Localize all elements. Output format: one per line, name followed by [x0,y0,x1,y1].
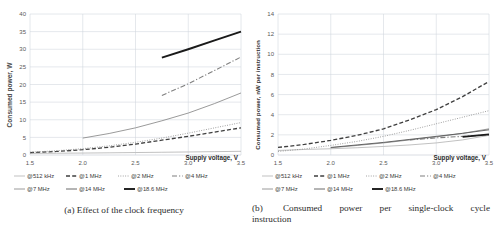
legend-label-1mhz[interactable]: @1 MHz [79,173,102,179]
chart-a-y-axis-label: Consumed power, W [6,62,14,128]
y-tick-label: 20 [19,82,26,88]
caption-b-word-1: power [339,203,362,214]
legend-label-2mhz[interactable]: @2 MHz [131,173,154,179]
legend-label-512khz[interactable]: @512 kHz [275,173,302,179]
y-tick-label: 5 [23,135,27,141]
y-tick-label: 14 [267,11,274,17]
chart-a: 0510152025303540 1.52.02.53.03.5 Consume… [0,0,248,200]
caption-b-word-0: Consumed [283,203,322,214]
y-tick-label: 8 [271,72,275,78]
x-tick-label: 3.5 [485,160,494,166]
legend-label-14mhz[interactable]: @14 MHz [327,186,353,192]
legend-label-186mhz[interactable]: @18.6 MHz [137,186,168,192]
y-tick-label: 0 [23,152,27,158]
chart-a-y-ticklabels: 0510152025303540 [19,11,26,158]
caption-b-line1: (b) Consumed power per single-clock cycl… [252,203,490,214]
panel-a: 0510152025303540 1.52.02.53.03.5 Consume… [0,0,248,236]
caption-b-line2: instruction [252,214,490,225]
caption-b-word-2: per [380,203,392,214]
chart-a-gridlines [30,14,241,155]
chart-a-svg: 0510152025303540 1.52.02.53.03.5 Consume… [0,0,248,200]
x-tick-label: 2.5 [379,160,388,166]
caption-b-word-4: cycle [471,203,490,214]
caption-b: (b) Consumed power per single-clock cycl… [248,200,496,225]
y-tick-label: 10 [267,51,274,57]
y-tick-label: 25 [19,64,26,70]
x-tick-label: 1.5 [26,160,35,166]
caption-a: (a) Effect of the clock frequency [0,200,248,216]
y-tick-label: 12 [267,31,274,37]
chart-b: 02468101214 1.52.02.53.03.5 Consumed pow… [248,0,496,200]
chart-b-y-axis-label: Consumed power, nW per instruction [254,40,261,150]
caption-a-label: (a) [64,205,74,215]
chart-b-svg: 02468101214 1.52.02.53.03.5 Consumed pow… [248,0,496,200]
chart-b-legend: @512 kHz@1 MHz@2 MHz@4 MHz@7 MHz@14 MHz@… [262,173,456,192]
legend-label-512khz[interactable]: @512 kHz [27,173,54,179]
caption-b-word-3: single-clock [408,203,453,214]
chart-b-x-axis-label: Supply voltage, V [434,154,487,162]
x-tick-label: 1.5 [274,160,283,166]
series-line-4mhz [162,57,241,95]
legend-label-7mhz[interactable]: @7 MHz [275,186,298,192]
y-tick-label: 2 [271,132,275,138]
y-tick-label: 35 [19,29,26,35]
y-tick-label: 6 [271,92,275,98]
legend-label-4mhz[interactable]: @4 MHz [433,173,456,179]
y-tick-label: 40 [19,11,26,17]
legend-label-1mhz[interactable]: @1 MHz [327,173,350,179]
x-tick-label: 3.5 [237,160,246,166]
caption-a-text: Effect of the clock frequency [77,205,184,215]
y-tick-label: 30 [19,46,26,52]
legend-label-14mhz[interactable]: @14 MHz [79,186,105,192]
series-line-186mhz [162,32,241,58]
y-tick-label: 15 [19,99,26,105]
x-tick-label: 2.0 [327,160,336,166]
y-tick-label: 10 [19,117,26,123]
legend-label-7mhz[interactable]: @7 MHz [27,186,50,192]
caption-b-label: (b) [252,203,263,214]
y-tick-label: 4 [271,112,275,118]
chart-b-y-ticklabels: 02468101214 [267,11,274,158]
x-tick-label: 2.0 [79,160,88,166]
legend-label-186mhz[interactable]: @18.6 MHz [385,186,416,192]
chart-a-legend: @512 kHz@1 MHz@2 MHz@4 MHz@7 MHz@14 MHz@… [14,173,208,192]
y-tick-label: 0 [271,152,275,158]
figure-container: 0510152025303540 1.52.02.53.03.5 Consume… [0,0,496,236]
legend-label-4mhz[interactable]: @4 MHz [185,173,208,179]
legend-label-2mhz[interactable]: @2 MHz [379,173,402,179]
x-tick-label: 2.5 [131,160,140,166]
panel-b: 02468101214 1.52.02.53.03.5 Consumed pow… [248,0,496,236]
chart-a-x-axis-label: Supply voltage, V [186,154,239,162]
